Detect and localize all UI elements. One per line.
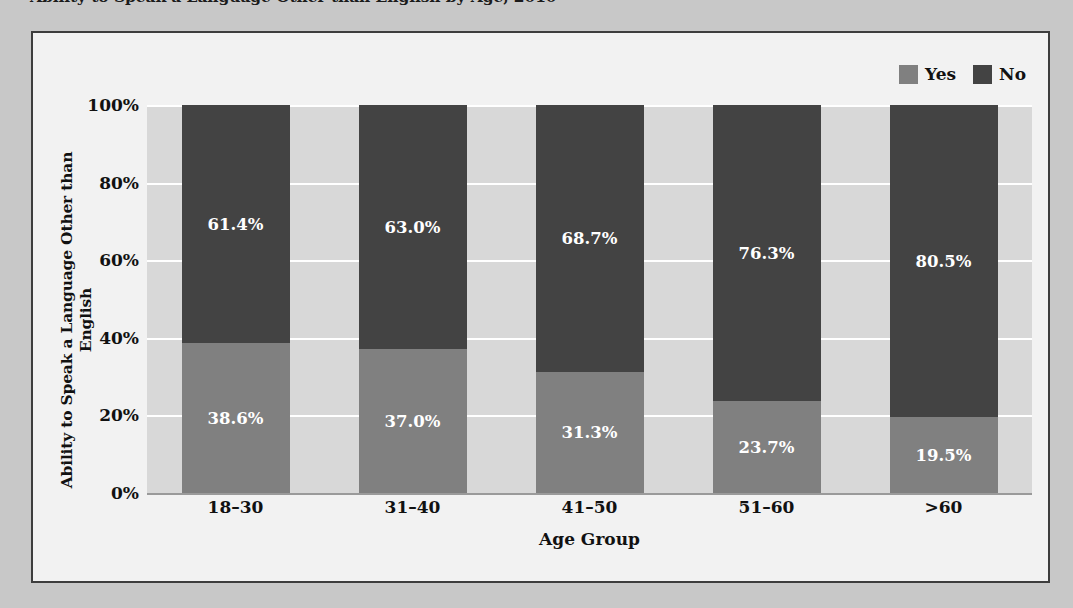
bar-segment-yes[interactable]: 38.6% [182,343,290,493]
bar-segment-no[interactable]: 68.7% [536,105,644,372]
bar-group[interactable]: 61.4% 38.6% [182,105,290,493]
legend-swatch-no [973,65,992,84]
x-tick-label: >60 [890,497,998,517]
plot-wrapper: 100% 80% 60% 40% 20% 0% 61.4% 38.6% [147,105,1032,493]
bar-segment-yes[interactable]: 37.0% [359,349,467,493]
x-tick-label: 51–60 [713,497,821,517]
bar-value-label-yes: 23.7% [713,438,821,457]
bar-value-label-yes: 38.6% [182,409,290,428]
chart-title: Ability to Speak a Language Other than E… [30,0,1030,5]
bar-value-label-no: 61.4% [182,215,290,234]
y-tick-label: 60% [99,250,139,270]
bar-segment-no[interactable]: 80.5% [890,105,998,417]
bar-segment-yes[interactable]: 23.7% [713,401,821,493]
bar-value-label-yes: 31.3% [536,423,644,442]
bar-group[interactable]: 80.5% 19.5% [890,105,998,493]
y-axis-tick-labels: 100% 80% 60% 40% 20% 0% [75,105,139,493]
chart-legend: Yes No [899,64,1026,84]
y-tick-label: 80% [99,173,139,193]
bar-group[interactable]: 68.7% 31.3% [536,105,644,493]
bar-segment-yes[interactable]: 31.3% [536,372,644,493]
bar-value-label-no: 68.7% [536,229,644,248]
legend-label-no: No [999,64,1026,84]
bar-segment-no[interactable]: 61.4% [182,105,290,343]
bar-group[interactable]: 63.0% 37.0% [359,105,467,493]
bar-value-label-yes: 19.5% [890,446,998,465]
bar-segment-no[interactable]: 76.3% [713,105,821,401]
bar-value-label-no: 80.5% [890,252,998,271]
bar-value-label-yes: 37.0% [359,412,467,431]
bar-value-label-no: 63.0% [359,218,467,237]
bars-layer: 61.4% 38.6% 63.0% 37.0% 68 [147,105,1032,493]
x-tick-label: 18–30 [182,497,290,517]
x-tick-label: 31–40 [359,497,467,517]
bar-value-label-no: 76.3% [713,244,821,263]
x-axis-tick-labels: 18–30 31–40 41–50 51–60 >60 [147,497,1032,517]
y-tick-label: 100% [87,95,139,115]
bar-group[interactable]: 76.3% 23.7% [713,105,821,493]
legend-item-no[interactable]: No [973,64,1026,84]
y-tick-label: 0% [111,483,139,503]
x-tick-label: 41–50 [536,497,644,517]
bar-segment-no[interactable]: 63.0% [359,105,467,349]
y-tick-label: 20% [99,405,139,425]
legend-item-yes[interactable]: Yes [899,64,956,84]
bar-segment-yes[interactable]: 19.5% [890,417,998,493]
legend-swatch-yes [899,65,918,84]
y-tick-label: 40% [99,328,139,348]
x-axis-title: Age Group [147,529,1032,549]
x-axis-line [147,493,1032,495]
chart-card: Yes No Ability to Speak a Language Other… [31,31,1050,583]
legend-label-yes: Yes [925,64,956,84]
plot-area: 61.4% 38.6% 63.0% 37.0% 68 [147,105,1032,493]
